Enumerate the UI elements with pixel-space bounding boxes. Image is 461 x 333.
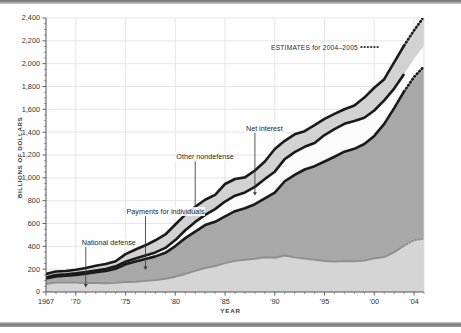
scanned-page: BILLIONS OF DOLLARS YEAR 02004006008001,… xyxy=(0,4,461,322)
estimates-legend-label: ESTIMATES for 2004–2005 xyxy=(271,44,358,51)
scan-bottom-edge-band xyxy=(0,322,461,327)
y-tick-label: 2,400 xyxy=(6,13,40,22)
x-tick-label: '70 xyxy=(56,297,96,306)
y-tick-label: 600 xyxy=(6,219,40,228)
chart-canvas xyxy=(0,4,461,322)
estimates-legend: ESTIMATES for 2004–2005•••••• xyxy=(271,42,380,51)
x-tick-label: '04 xyxy=(394,297,434,306)
y-tick-label: 200 xyxy=(6,265,40,274)
x-tick-label: '75 xyxy=(106,297,146,306)
x-axis-title: YEAR xyxy=(0,307,461,314)
y-tick-label: 1,400 xyxy=(6,128,40,137)
y-tick-label: 1,200 xyxy=(6,150,40,159)
x-tick-label: '90 xyxy=(255,297,295,306)
y-tick-label: 2,000 xyxy=(6,59,40,68)
series-label-net-interest: Net interest xyxy=(245,124,284,133)
x-tick-label: '80 xyxy=(155,297,195,306)
y-tick-label: 1,600 xyxy=(6,105,40,114)
estimates-legend-dots: •••••• xyxy=(360,42,380,51)
series-label-national-defense: National defense xyxy=(81,238,137,247)
x-tick-label: '85 xyxy=(205,297,245,306)
series-label-payments-for-individuals: Payments for individuals xyxy=(126,207,206,216)
y-tick-label: 400 xyxy=(6,242,40,251)
series-label-other-nondefense: Other nondefense xyxy=(175,152,235,161)
y-tick-label: 1,000 xyxy=(6,173,40,182)
x-tick-label: '95 xyxy=(305,297,345,306)
area-series-group xyxy=(46,17,424,292)
y-tick-label: 2,200 xyxy=(6,36,40,45)
y-tick-label: 0 xyxy=(6,287,40,296)
stacked-area-chart: BILLIONS OF DOLLARS YEAR 02004006008001,… xyxy=(0,4,461,322)
y-tick-label: 800 xyxy=(6,196,40,205)
x-tick-label: '00 xyxy=(354,297,394,306)
y-tick-label: 1,800 xyxy=(6,82,40,91)
